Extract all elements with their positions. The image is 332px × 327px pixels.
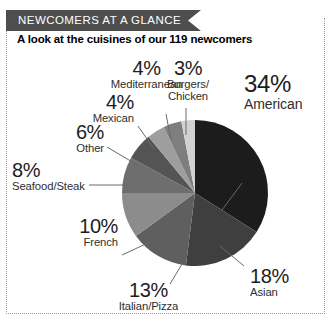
infographic-page: NEWCOMERS AT A GLANCE A look at the cuis… bbox=[0, 0, 332, 327]
chart-subtitle: A look at the cuisines of our 119 newcom… bbox=[17, 33, 252, 45]
label-american-name: American bbox=[244, 97, 302, 112]
label-other-pct: 6% bbox=[24, 122, 104, 143]
label-american-pct: 34% bbox=[244, 72, 302, 97]
label-asian-name: Asian bbox=[250, 287, 289, 299]
label-burgers-pct: 3% bbox=[159, 58, 217, 79]
label-asian: 18% Asian bbox=[250, 266, 289, 299]
label-american: 34% American bbox=[244, 72, 302, 112]
label-seafood: 8% Seafood/Steak bbox=[12, 160, 85, 193]
header-ribbon: NEWCOMERS AT A GLANCE bbox=[6, 10, 201, 31]
label-burgers-name-line1: Burgers/ bbox=[159, 79, 217, 91]
label-mexican: 4% Mexican bbox=[50, 92, 134, 125]
label-asian-pct: 18% bbox=[250, 266, 289, 287]
pie-chart: 34% American 18% Asian 13% Italian/Pizza… bbox=[6, 50, 325, 314]
label-mexican-name: Mexican bbox=[50, 113, 134, 125]
label-french-pct: 10% bbox=[26, 216, 118, 237]
label-italian: 13% Italian/Pizza bbox=[101, 280, 196, 313]
label-mexican-pct: 4% bbox=[50, 92, 134, 113]
label-burgers: 3% Burgers/ Chicken bbox=[159, 58, 217, 102]
pie-slice-group bbox=[122, 120, 268, 266]
label-french-name: French bbox=[26, 237, 118, 249]
label-french: 10% French bbox=[26, 216, 118, 249]
label-seafood-name: Seafood/Steak bbox=[12, 181, 85, 193]
label-italian-name: Italian/Pizza bbox=[101, 301, 196, 313]
label-other: 6% Other bbox=[24, 122, 104, 155]
label-italian-pct: 13% bbox=[101, 280, 196, 301]
label-other-name: Other bbox=[24, 143, 104, 155]
leader-line-french bbox=[122, 242, 150, 255]
label-seafood-pct: 8% bbox=[12, 160, 85, 181]
ribbon-title: NEWCOMERS AT A GLANCE bbox=[18, 10, 181, 31]
label-burgers-name-line2: Chicken bbox=[159, 91, 217, 103]
